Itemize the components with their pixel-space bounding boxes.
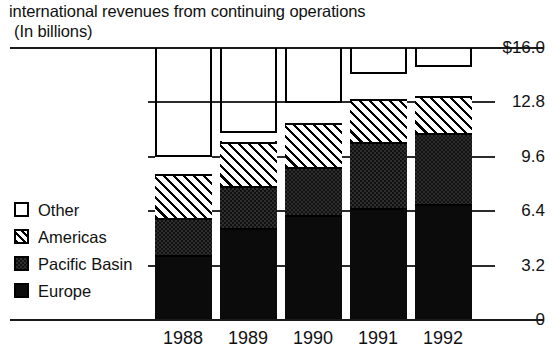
- bar-segment-1989-europe: [220, 228, 277, 320]
- bar-segment-1992-pacific-basin: [415, 133, 472, 204]
- legend-swatch-europe-icon: [14, 283, 29, 298]
- bar-segment-1988-europe: [155, 255, 212, 320]
- legend-label: Other: [38, 201, 79, 219]
- bar-segment-1988-americas: [155, 174, 212, 218]
- legend-swatch-pacific-basin-icon: [14, 256, 29, 271]
- bar-segment-1992-other: [415, 65, 472, 96]
- bar-1992: [415, 48, 472, 320]
- bar-segment-1990-europe: [285, 215, 342, 320]
- bar-segment-1991-europe: [350, 208, 407, 320]
- bar-segment-1989-americas: [220, 142, 277, 186]
- legend-label: Europe: [38, 282, 91, 300]
- bar-segment-1988-other: [155, 155, 212, 174]
- bar-1990: [285, 48, 342, 320]
- bar-1989: [220, 48, 277, 320]
- plot-area: $16.012.89.66.43.2019881989199019911992: [0, 0, 553, 364]
- bar-segment-1992-europe: [415, 204, 472, 320]
- bar-1991: [350, 48, 407, 320]
- bar-segment-1991-americas: [350, 99, 407, 142]
- legend-swatch-americas-icon: [14, 229, 29, 244]
- bar-1988: [155, 48, 212, 320]
- legend-item-americas: Americas: [14, 223, 132, 250]
- y-axis-label-3.2: 3.2: [521, 257, 545, 274]
- y-axis-label-$16.0: $16.0: [502, 39, 545, 56]
- stacked-bar-chart: international revenues from continuing o…: [0, 0, 553, 364]
- bar-segment-1989-other: [220, 131, 277, 141]
- bar-segment-1988-pacific-basin: [155, 218, 212, 255]
- legend-item-pacific-basin: Pacific Basin: [14, 250, 132, 277]
- bar-segment-1990-americas: [285, 123, 342, 167]
- bar-segment-1992-americas: [415, 96, 472, 133]
- bar-segment-1991-pacific-basin: [350, 142, 407, 208]
- chart-baseline-rule: [10, 319, 543, 321]
- bar-segment-1989-pacific-basin: [220, 186, 277, 229]
- legend-label: Pacific Basin: [38, 255, 132, 273]
- y-axis-label-9.6: 9.6: [521, 148, 545, 165]
- y-axis-label-6.4: 6.4: [521, 202, 545, 219]
- bar-segment-1991-other: [350, 72, 407, 99]
- bar-segment-1990-pacific-basin: [285, 167, 342, 215]
- legend-item-other: Other: [14, 196, 132, 223]
- legend-item-europe: Europe: [14, 277, 132, 304]
- legend-label: Americas: [38, 228, 107, 246]
- bar-segment-1990-other: [285, 101, 342, 123]
- chart-legend: OtherAmericasPacific BasinEurope: [14, 196, 132, 304]
- x-axis-label-1992: 1992: [403, 328, 483, 348]
- y-axis-label-12.8: 12.8: [512, 93, 545, 110]
- legend-swatch-other-icon: [14, 202, 29, 217]
